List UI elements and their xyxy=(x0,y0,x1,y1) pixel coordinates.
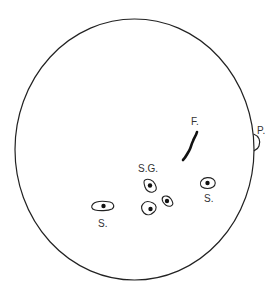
sunspot-right xyxy=(201,178,216,189)
sunspot-umbra xyxy=(101,204,105,208)
sunspot-umbra xyxy=(148,183,152,187)
sunspot-left xyxy=(92,201,114,210)
sunspot-umbra xyxy=(205,181,209,185)
sunspot-right-label: S. xyxy=(204,193,213,204)
filament-shape xyxy=(183,132,197,160)
sunspot-left-label: S. xyxy=(98,218,107,229)
solar-disk-diagram: P. F. S.G. S. S. xyxy=(0,0,276,292)
sunspot-umbra xyxy=(165,199,169,203)
sunspot-umbra xyxy=(148,207,152,211)
filament-label: F. xyxy=(191,116,199,127)
sunspot-group xyxy=(142,179,173,215)
prominence-label: P. xyxy=(257,125,265,136)
sunspot-group-label: S.G. xyxy=(138,163,158,174)
solar-disk-outline xyxy=(15,19,254,280)
